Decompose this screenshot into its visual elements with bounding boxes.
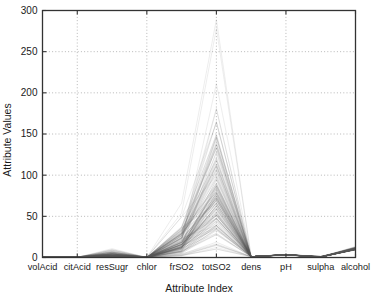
y-tick-label: 50: [26, 211, 38, 222]
y-tick-label: 150: [21, 128, 38, 139]
x-tick-label: alcohol: [341, 262, 370, 272]
x-tick-label: frSO2: [170, 262, 194, 272]
x-tick-label: sulpha: [307, 262, 335, 272]
y-tick-label: 250: [21, 46, 38, 57]
x-tick-label: volAcid: [28, 262, 58, 272]
x-tick-label: pH: [280, 262, 292, 272]
x-tick-label: resSugr: [96, 262, 128, 272]
y-axis-title: Attribute Values: [1, 103, 13, 176]
y-tick-label: 100: [21, 170, 38, 181]
x-tick-label: citAcid: [64, 262, 91, 272]
chart-canvas: 050100150200250300 volAcidcitAcidresSugr…: [0, 0, 377, 301]
y-tick-label: 200: [21, 87, 38, 98]
y-tick-label: 300: [21, 5, 38, 16]
x-tick-label: totSO2: [202, 262, 231, 272]
x-tick-label: dens: [241, 262, 261, 272]
x-axis-title: Attribute Index: [165, 282, 233, 294]
x-tick-label: chlor: [137, 262, 157, 272]
parallel-coordinates-chart: 050100150200250300 volAcidcitAcidresSugr…: [0, 0, 377, 301]
